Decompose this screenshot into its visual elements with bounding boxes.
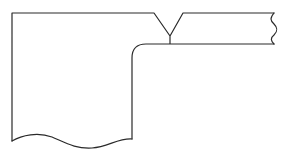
bottom-break-line <box>12 134 132 148</box>
weld-joint-diagram <box>0 0 291 158</box>
right-break-line <box>271 13 277 44</box>
part-outline <box>12 13 274 141</box>
